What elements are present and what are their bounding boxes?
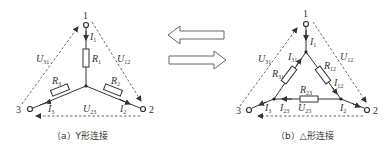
- i23-label: I23: [279, 102, 289, 114]
- i3-arrow: [40, 103, 46, 105]
- u31-label: U31: [36, 53, 49, 65]
- node-3-label: 3: [16, 104, 21, 115]
- i3-label: I3: [47, 103, 54, 115]
- node-3-label: 3: [236, 105, 241, 116]
- caption-a: （a）Y形连接: [52, 130, 108, 141]
- y-delta-transformation-diagram: 1 2 3 R1 R2 R3 I1 I2 I3 U12 U23 U31 （a）Y…: [0, 0, 390, 149]
- node-1-label: 1: [303, 8, 308, 19]
- i2-label: I2: [119, 103, 126, 115]
- transform-arrows: [168, 26, 226, 69]
- resistor-r1: [83, 49, 89, 67]
- i3-label: I3: [264, 102, 271, 114]
- lead-2-wire: [341, 99, 364, 108]
- i2-label: I2: [339, 102, 346, 114]
- terminal-2: [141, 107, 146, 112]
- y-connection-diagram: 1 2 3 R1 R2 R3 I1 I2 I3 U12 U23 U31 （a）Y…: [16, 10, 154, 141]
- junction-right: [339, 97, 342, 100]
- caption-b: （b）△形连接: [276, 130, 334, 141]
- i1-label: I1: [309, 36, 316, 48]
- terminal-2: [365, 108, 370, 113]
- i12-arrow: [332, 87, 337, 94]
- u12-dashed-arrow: [313, 22, 366, 102]
- star-point: [84, 84, 87, 87]
- r12-label: R12: [323, 60, 336, 72]
- r3-label: R3: [51, 75, 61, 87]
- r31-label: R31: [271, 68, 284, 80]
- r23-label: R23: [299, 84, 312, 96]
- u23-label: U23: [83, 103, 96, 115]
- i1-label: I1: [89, 31, 96, 43]
- u31-label: U31: [258, 53, 271, 65]
- terminal-3: [28, 107, 33, 112]
- terminal-1: [84, 23, 89, 28]
- u12-label: U12: [117, 53, 130, 65]
- r1-label: R1: [91, 53, 101, 65]
- left-hollow-arrow-icon: [168, 26, 224, 44]
- u23-label: U23: [298, 102, 311, 114]
- junction-left: [272, 97, 275, 100]
- junction-top: [304, 50, 307, 53]
- u12-label: U12: [340, 51, 353, 63]
- terminal-3: [247, 108, 252, 113]
- delta-connection-diagram: 1 2 3 R12 R23 R31 I1 I2 I3 I12 I23 I31 U…: [236, 8, 378, 141]
- node-1-label: 1: [83, 10, 88, 21]
- node-2-label: 2: [373, 105, 378, 116]
- i31-label: I31: [287, 51, 297, 63]
- right-hollow-arrow-icon: [169, 51, 226, 69]
- r2-label: R2: [110, 75, 120, 87]
- i12-label: I12: [333, 77, 343, 89]
- u31-dashed-arrow: [240, 28, 297, 106]
- node-2-label: 2: [149, 104, 154, 115]
- terminal-1: [304, 22, 309, 27]
